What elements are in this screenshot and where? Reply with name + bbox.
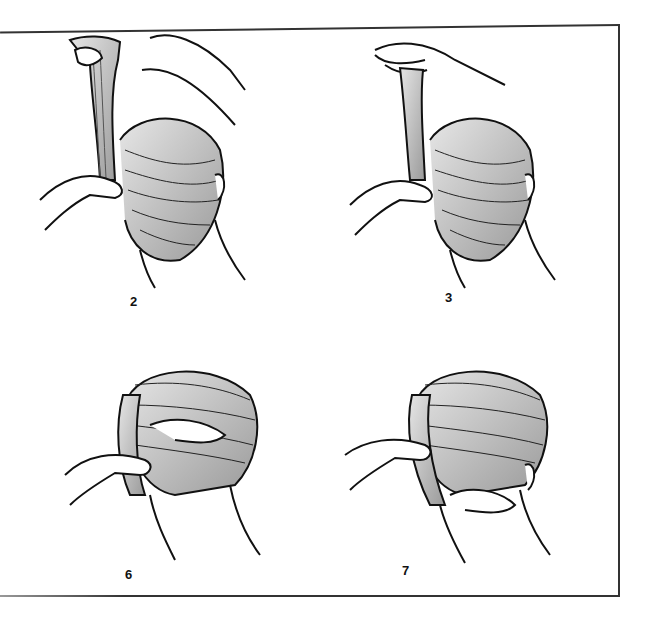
- step-number-6: 6: [125, 567, 132, 582]
- step-number-2: 2: [130, 294, 137, 309]
- panel-step-2: 2: [30, 30, 270, 290]
- panel-step-6: 6: [55, 345, 295, 565]
- step-number-3: 3: [445, 290, 452, 305]
- hair-twist-step-3-drawing: [345, 30, 585, 290]
- panel-step-7: 7: [340, 345, 580, 565]
- hair-twist-step-2-drawing: [30, 30, 270, 290]
- frame-border-bottom: [0, 595, 620, 597]
- hair-twist-step-6-drawing: [55, 345, 295, 565]
- panel-step-3: 3: [345, 30, 585, 290]
- hair-twist-step-7-drawing: [340, 345, 580, 565]
- frame-border-right: [618, 24, 620, 595]
- step-number-7: 7: [402, 563, 409, 578]
